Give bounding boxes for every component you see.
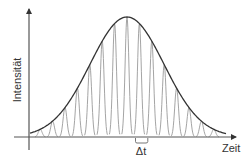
- pulse-envelope-diagram: Δt Zeit Intensität: [0, 0, 252, 161]
- pulse-train: [35, 17, 219, 137]
- pulse-8: [122, 17, 132, 134]
- pulse-6: [97, 41, 107, 135]
- y-axis-label: Intensität: [11, 58, 23, 103]
- delta-t-bracket: [136, 138, 148, 143]
- delta-t-label: Δt: [136, 145, 146, 157]
- pulse-7: [109, 24, 119, 135]
- pulse-5: [85, 65, 95, 136]
- pulse-9: [134, 24, 144, 135]
- x-axis-label: Zeit: [222, 142, 240, 154]
- pulse-10: [147, 41, 157, 135]
- pulse-11: [159, 65, 169, 136]
